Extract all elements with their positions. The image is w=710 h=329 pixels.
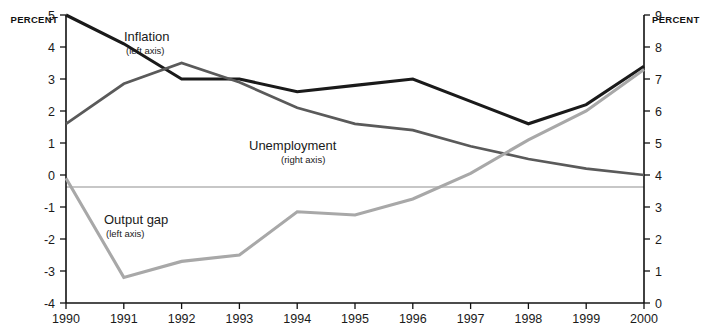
left-axis-tick-label: -3 [44, 265, 55, 279]
x-axis-ticks: 1990199119921993199419951996199719981999… [52, 303, 658, 326]
x-axis-tick-label: 2000 [630, 312, 658, 326]
output-gap-axis-note: (left axis) [106, 228, 145, 239]
right-axis-tick-label: 6 [655, 105, 662, 119]
left-axis-tick-label: 5 [48, 9, 55, 23]
right-axis-tick-label: 4 [655, 169, 662, 183]
left-axis-ticks: -4-3-2-1012345 [44, 9, 66, 311]
x-axis-tick-label: 1994 [283, 312, 311, 326]
unemployment-axis-note: (right axis) [281, 154, 325, 165]
x-axis-tick-label: 1991 [110, 312, 138, 326]
left-axis-tick-label: 4 [48, 41, 55, 55]
left-axis-tick-label: -4 [44, 297, 55, 311]
right-axis-tick-label: 5 [655, 137, 662, 151]
x-axis-tick-label: 1999 [572, 312, 600, 326]
x-axis-tick-label: 1997 [457, 312, 485, 326]
x-axis-tick-label: 1998 [514, 312, 542, 326]
right-axis-ticks: 0123456789 [644, 9, 662, 311]
chart-container: PERCENT PERCENT -4-3-2-1012345 012345678… [0, 0, 710, 329]
left-axis-tick-label: -2 [44, 233, 55, 247]
x-axis-tick-label: 1995 [341, 312, 369, 326]
left-axis-tick-label: -1 [44, 201, 55, 215]
x-axis-tick-label: 1992 [168, 312, 196, 326]
right-axis-tick-label: 0 [655, 297, 662, 311]
right-axis-tick-label: 8 [655, 41, 662, 55]
left-axis-tick-label: 0 [48, 169, 55, 183]
series-annotation-unemployment: Unemployment (right axis) [249, 138, 337, 165]
right-axis-tick-label: 9 [655, 9, 662, 23]
right-axis-tick-label: 7 [655, 73, 662, 87]
right-axis-tick-label: 3 [655, 201, 662, 215]
left-axis-tick-label: 3 [48, 73, 55, 87]
series-annotation-output-gap: Output gap (left axis) [104, 212, 168, 239]
left-axis-tick-label: 1 [48, 137, 55, 151]
left-axis-tick-label: 2 [48, 105, 55, 119]
economic-indicators-line-chart: PERCENT PERCENT -4-3-2-1012345 012345678… [0, 0, 710, 329]
x-axis-tick-label: 1996 [399, 312, 427, 326]
inflation-axis-note: (left axis) [126, 45, 165, 56]
series-line-output-gap [66, 69, 644, 277]
right-axis-tick-label: 1 [655, 265, 662, 279]
output-gap-label: Output gap [104, 212, 168, 227]
series-annotation-inflation: Inflation (left axis) [124, 29, 170, 56]
x-axis-tick-label: 1990 [52, 312, 80, 326]
x-axis-tick-label: 1993 [225, 312, 253, 326]
right-axis-tick-label: 2 [655, 233, 662, 247]
inflation-label: Inflation [124, 29, 170, 44]
unemployment-label: Unemployment [249, 138, 337, 153]
series-line-unemployment [66, 63, 644, 175]
